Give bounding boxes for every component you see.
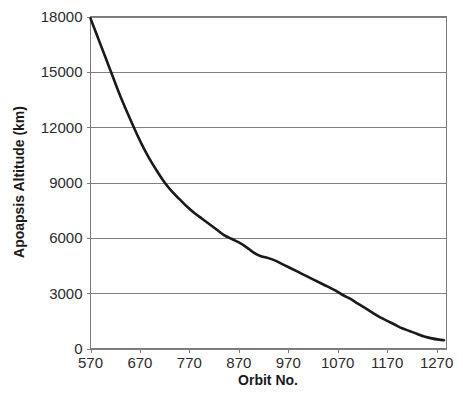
x-tick-label-1070: 1070 [321, 354, 354, 371]
chart-background [0, 0, 463, 404]
x-tick-label-670: 670 [127, 354, 152, 371]
y-tick-label-12000: 12000 [41, 119, 83, 136]
x-tick-label-770: 770 [177, 354, 202, 371]
y-tick-label-3000: 3000 [49, 285, 82, 302]
y-tick-label-9000: 9000 [49, 174, 82, 191]
y-tick-label-15000: 15000 [41, 63, 83, 80]
x-tick-label-1170: 1170 [371, 354, 403, 371]
apoapsis-altitude-chart: 0300060009000120001500018000 57067077087… [0, 0, 463, 404]
y-axis-title: Apoapsis Altitude (km) [11, 106, 27, 258]
x-tick-label-570: 570 [78, 354, 103, 371]
x-axis-title: Orbit No. [238, 372, 298, 388]
x-tick-label-970: 970 [276, 354, 301, 371]
x-tick-label-870: 870 [226, 354, 251, 371]
y-tick-label-18000: 18000 [41, 8, 83, 25]
x-tick-label-1270: 1270 [420, 354, 453, 371]
chart-canvas: 0300060009000120001500018000 57067077087… [0, 0, 463, 404]
y-tick-label-6000: 6000 [49, 229, 82, 246]
